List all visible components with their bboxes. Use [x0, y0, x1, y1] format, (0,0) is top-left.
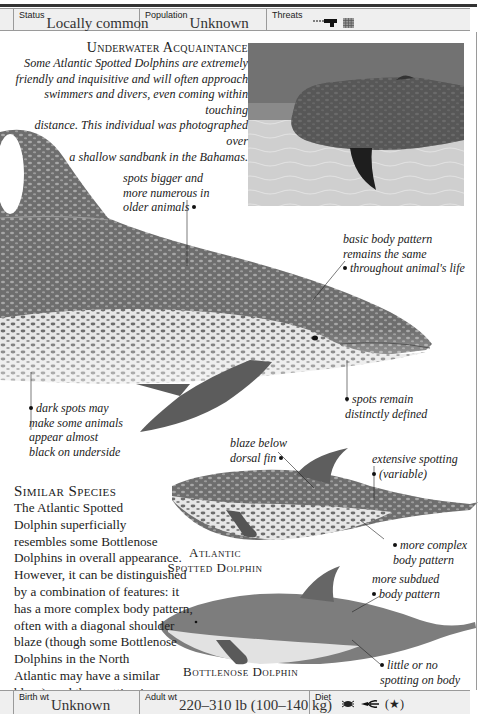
annotation-line: distinctly defined: [345, 407, 427, 422]
annotation-line: basic body pattern: [343, 232, 465, 247]
annotation-little-spotting: little or no spotting on body: [380, 658, 460, 687]
body-line: blaze (though some Bottlenose: [14, 634, 202, 651]
annotation-line: dorsal fin: [230, 451, 276, 465]
footer-info-bar: Birth wtUnknown Adult wt220–310 lb (100–…: [0, 690, 470, 714]
caption-line: swimmers and divers, even coming within …: [10, 87, 248, 118]
similar-species-section: Similar Species The Atlantic Spotted Dol…: [14, 483, 202, 714]
leader-dot: [372, 592, 376, 596]
annotation-line: remains the same: [343, 247, 465, 262]
diet-label: Diet: [315, 692, 331, 702]
annotation-line: more subdued: [372, 572, 440, 587]
annotation-line: spots remain: [352, 392, 413, 406]
underwater-photo: [248, 43, 464, 206]
annotation-spots-remain: spots remain distinctly defined: [345, 392, 427, 421]
body-line: has a more complex body pattern,: [14, 601, 202, 618]
leader-dot: [393, 543, 397, 547]
annotation-basic-pattern: basic body pattern remains the same thro…: [343, 232, 465, 276]
caption-line: a shallow sandbank in the Bahamas.: [10, 150, 248, 166]
annotation-line: more complex: [400, 538, 467, 552]
body-line: Atlantic may have a similar: [14, 668, 202, 685]
annotation-line: extensive spotting: [372, 452, 458, 467]
squid-icon: (★): [385, 697, 404, 712]
annotation-line: (variable): [379, 467, 427, 481]
body-line: Dolphins in the North: [14, 651, 202, 668]
annotation-dark-spots: dark spots may make some animals appear …: [29, 401, 123, 459]
annotation-line: little or no: [387, 658, 438, 672]
body-line: Dolphin superficially: [14, 517, 202, 534]
leader-dot: [345, 397, 349, 401]
leader-dot: [279, 456, 283, 460]
photo-caption: Underwater Acquaintance Some Atlantic Sp…: [10, 39, 248, 165]
annotation-line: body pattern: [393, 553, 467, 568]
annotation-line: make some animals: [29, 416, 123, 431]
annotation-blaze: blaze below dorsal fin: [230, 436, 287, 465]
annotation-line: blaze below: [230, 436, 287, 451]
annotation-spots-bigger: spots bigger and more numerous in older …: [123, 171, 209, 215]
annotation-line: spots bigger and: [123, 171, 209, 186]
leader-dot: [343, 266, 347, 270]
annotation-line: black on underside: [29, 445, 123, 460]
annotation-line: appear almost: [29, 430, 123, 445]
body-line: by a combination of features: it: [14, 584, 202, 601]
crustacean-icon: [341, 699, 355, 709]
similar-species-title: Similar Species: [14, 483, 202, 500]
caption-line: Some Atlantic Spotted Dolphins are extre…: [10, 56, 248, 72]
body-line: However, it can be distinguished: [14, 567, 202, 584]
photo-caption-body: Some Atlantic Spotted Dolphins are extre…: [10, 56, 248, 165]
annotation-line: more numerous in: [123, 186, 209, 201]
leader-dot: [192, 205, 196, 209]
fish-icon: [361, 700, 379, 708]
annotation-line: throughout animal's life: [350, 261, 465, 275]
similar-species-body: The Atlantic Spotted Dolphin superficial…: [14, 500, 202, 714]
adult-weight-value: 220–310 lb (100–140 kg): [179, 697, 332, 713]
leader-dot: [380, 663, 384, 667]
photo-caption-title: Underwater Acquaintance: [10, 39, 248, 56]
body-line: The Atlantic Spotted: [14, 500, 202, 517]
body-line: resembles some Bottlenose: [14, 534, 202, 551]
annotation-line: dark spots may: [36, 401, 109, 415]
annotation-extensive-spotting: extensive spotting (variable): [372, 452, 458, 481]
adult-weight-cell: Adult wt220–310 lb (100–140 kg): [140, 691, 310, 714]
caption-line: friendly and inquisitive and will often …: [10, 72, 248, 88]
annotation-more-complex: more complex body pattern: [393, 538, 467, 567]
caption-line: distance. This individual was photograph…: [10, 118, 248, 149]
annotation-line: older animals: [123, 200, 189, 214]
leader-dot: [29, 406, 33, 410]
annotation-line: spotting on body: [380, 673, 460, 688]
birth-weight-label: Birth wt: [19, 692, 49, 702]
diet-cell: Diet (★): [310, 691, 470, 714]
birth-weight-cell: Birth wtUnknown: [14, 691, 140, 714]
leader-dot: [372, 472, 376, 476]
body-line: Dolphins in overall appearance.: [14, 550, 202, 567]
annotation-more-subdued: more subdued body pattern: [372, 572, 440, 601]
annotation-line: body pattern: [379, 587, 440, 601]
adult-weight-label: Adult wt: [145, 692, 177, 702]
info-bar-stub: [0, 691, 14, 714]
body-line: often with a diagonal shoulder: [14, 618, 202, 635]
birth-weight-value: Unknown: [51, 697, 110, 713]
